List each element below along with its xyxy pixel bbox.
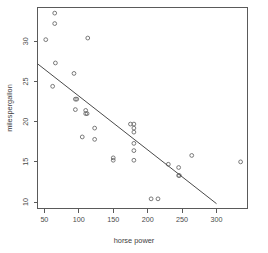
x-axis-title: horse power bbox=[114, 236, 155, 245]
data-point bbox=[51, 84, 55, 88]
data-point bbox=[190, 154, 194, 158]
x-tick-label: 50 bbox=[40, 215, 48, 224]
data-point bbox=[53, 11, 57, 15]
data-point bbox=[80, 135, 84, 139]
y-tick-label: 10 bbox=[21, 198, 30, 206]
data-point bbox=[149, 197, 153, 201]
x-tick-label: 100 bbox=[73, 215, 85, 224]
y-tick-label: 15 bbox=[21, 158, 30, 166]
data-point bbox=[177, 166, 181, 170]
chart-canvas: 50100150200250300 1015202530 horse power… bbox=[0, 0, 268, 253]
x-tick-label: 150 bbox=[107, 215, 119, 224]
data-point bbox=[111, 156, 115, 160]
data-point bbox=[86, 36, 90, 40]
y-axis-ticks bbox=[34, 41, 38, 202]
data-point bbox=[72, 72, 76, 76]
x-tick-labels: 50100150200250300 bbox=[40, 215, 222, 224]
regression-line bbox=[38, 64, 217, 204]
x-tick-label: 300 bbox=[211, 215, 223, 224]
plot-border bbox=[38, 8, 248, 209]
data-point bbox=[53, 22, 57, 26]
y-axis-title: milespergallon bbox=[5, 84, 14, 132]
data-point bbox=[132, 126, 136, 130]
y-tick-label: 20 bbox=[21, 118, 30, 126]
x-axis-ticks bbox=[44, 209, 216, 213]
scatter-plot-figure: 50100150200250300 1015202530 horse power… bbox=[0, 0, 268, 253]
data-point bbox=[54, 61, 58, 65]
x-tick-label: 200 bbox=[142, 215, 154, 224]
y-tick-label: 30 bbox=[21, 37, 30, 45]
data-point bbox=[156, 197, 160, 201]
data-points bbox=[44, 11, 243, 201]
data-point bbox=[132, 130, 136, 134]
data-point bbox=[93, 137, 97, 141]
data-point bbox=[132, 158, 136, 162]
data-point bbox=[239, 160, 243, 164]
x-tick-label: 250 bbox=[176, 215, 188, 224]
data-point bbox=[132, 141, 136, 145]
plot-frame bbox=[38, 8, 248, 209]
y-tick-labels: 1015202530 bbox=[21, 37, 30, 206]
data-point bbox=[73, 108, 77, 112]
data-point bbox=[44, 38, 48, 42]
y-tick-label: 25 bbox=[21, 77, 30, 85]
fit-line-segment bbox=[38, 64, 217, 204]
data-point bbox=[132, 149, 136, 153]
data-point bbox=[93, 126, 97, 130]
